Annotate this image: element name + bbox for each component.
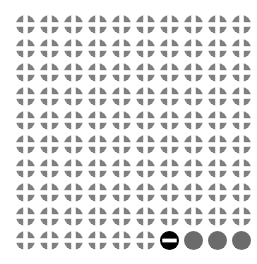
grid-cell-r10-c9[interactable] bbox=[205, 228, 229, 252]
grid-cell-r3-c10[interactable] bbox=[229, 60, 253, 84]
grid-cell-r7-c1[interactable] bbox=[13, 156, 37, 180]
grid-cell-r6-c8[interactable] bbox=[181, 132, 205, 156]
grid-cell-r10-c8[interactable] bbox=[181, 228, 205, 252]
grid-cell-r7-c8[interactable] bbox=[181, 156, 205, 180]
grid-cell-r10-c2[interactable] bbox=[37, 228, 61, 252]
grid-cell-r5-c7[interactable] bbox=[157, 108, 181, 132]
grid-cell-r7-c10[interactable] bbox=[229, 156, 253, 180]
grid-cell-r4-c8[interactable] bbox=[181, 84, 205, 108]
grid-cell-r7-c5[interactable] bbox=[109, 156, 133, 180]
grid-cell-r2-c1[interactable] bbox=[13, 36, 37, 60]
grid-cell-r8-c5[interactable] bbox=[109, 180, 133, 204]
grid-cell-r3-c4[interactable] bbox=[85, 60, 109, 84]
grid-cell-r8-c1[interactable] bbox=[13, 180, 37, 204]
grid-cell-r10-c7[interactable] bbox=[157, 228, 181, 252]
grid-cell-r3-c3[interactable] bbox=[61, 60, 85, 84]
grid-cell-r5-c9[interactable] bbox=[205, 108, 229, 132]
grid-cell-r4-c10[interactable] bbox=[229, 84, 253, 108]
grid-cell-r3-c6[interactable] bbox=[133, 60, 157, 84]
grid-cell-r9-c9[interactable] bbox=[205, 204, 229, 228]
grid-cell-r5-c1[interactable] bbox=[13, 108, 37, 132]
grid-cell-r5-c2[interactable] bbox=[37, 108, 61, 132]
grid-cell-r3-c7[interactable] bbox=[157, 60, 181, 84]
grid-cell-r6-c2[interactable] bbox=[37, 132, 61, 156]
grid-cell-r4-c4[interactable] bbox=[85, 84, 109, 108]
grid-cell-r7-c4[interactable] bbox=[85, 156, 109, 180]
grid-cell-r4-c7[interactable] bbox=[157, 84, 181, 108]
grid-cell-r1-c6[interactable] bbox=[133, 12, 157, 36]
grid-cell-r9-c10[interactable] bbox=[229, 204, 253, 228]
grid-cell-r6-c6[interactable] bbox=[133, 132, 157, 156]
grid-cell-r10-c5[interactable] bbox=[109, 228, 133, 252]
grid-cell-r4-c2[interactable] bbox=[37, 84, 61, 108]
grid-cell-r8-c4[interactable] bbox=[85, 180, 109, 204]
grid-cell-r1-c5[interactable] bbox=[109, 12, 133, 36]
grid-cell-r3-c2[interactable] bbox=[37, 60, 61, 84]
grid-cell-r1-c7[interactable] bbox=[157, 12, 181, 36]
grid-cell-r2-c4[interactable] bbox=[85, 36, 109, 60]
grid-cell-r4-c9[interactable] bbox=[205, 84, 229, 108]
grid-cell-r2-c8[interactable] bbox=[181, 36, 205, 60]
grid-cell-r4-c6[interactable] bbox=[133, 84, 157, 108]
grid-cell-r9-c4[interactable] bbox=[85, 204, 109, 228]
grid-cell-r3-c8[interactable] bbox=[181, 60, 205, 84]
grid-cell-r6-c1[interactable] bbox=[13, 132, 37, 156]
grid-cell-r5-c4[interactable] bbox=[85, 108, 109, 132]
grid-cell-r9-c2[interactable] bbox=[37, 204, 61, 228]
grid-cell-r8-c9[interactable] bbox=[205, 180, 229, 204]
grid-cell-r5-c10[interactable] bbox=[229, 108, 253, 132]
grid-cell-r3-c1[interactable] bbox=[13, 60, 37, 84]
grid-cell-r4-c5[interactable] bbox=[109, 84, 133, 108]
grid-cell-r5-c5[interactable] bbox=[109, 108, 133, 132]
grid-cell-r6-c4[interactable] bbox=[85, 132, 109, 156]
grid-cell-r1-c10[interactable] bbox=[229, 12, 253, 36]
grid-cell-r3-c9[interactable] bbox=[205, 60, 229, 84]
grid-cell-r1-c2[interactable] bbox=[37, 12, 61, 36]
grid-cell-r6-c5[interactable] bbox=[109, 132, 133, 156]
grid-cell-r2-c9[interactable] bbox=[205, 36, 229, 60]
grid-cell-r2-c5[interactable] bbox=[109, 36, 133, 60]
grid-cell-r5-c6[interactable] bbox=[133, 108, 157, 132]
grid-cell-r8-c6[interactable] bbox=[133, 180, 157, 204]
grid-cell-r8-c3[interactable] bbox=[61, 180, 85, 204]
grid-cell-r9-c3[interactable] bbox=[61, 204, 85, 228]
grid-cell-r2-c10[interactable] bbox=[229, 36, 253, 60]
grid-cell-r9-c8[interactable] bbox=[181, 204, 205, 228]
grid-cell-r10-c4[interactable] bbox=[85, 228, 109, 252]
grid-cell-r7-c9[interactable] bbox=[205, 156, 229, 180]
grid-cell-r2-c6[interactable] bbox=[133, 36, 157, 60]
grid-cell-r1-c4[interactable] bbox=[85, 12, 109, 36]
grid-cell-r8-c7[interactable] bbox=[157, 180, 181, 204]
grid-cell-r1-c9[interactable] bbox=[205, 12, 229, 36]
grid-cell-r7-c7[interactable] bbox=[157, 156, 181, 180]
grid-cell-r5-c3[interactable] bbox=[61, 108, 85, 132]
grid-cell-r8-c8[interactable] bbox=[181, 180, 205, 204]
grid-cell-r9-c5[interactable] bbox=[109, 204, 133, 228]
grid-cell-r8-c10[interactable] bbox=[229, 180, 253, 204]
grid-cell-r2-c7[interactable] bbox=[157, 36, 181, 60]
grid-cell-r9-c7[interactable] bbox=[157, 204, 181, 228]
grid-cell-r10-c10[interactable] bbox=[229, 228, 253, 252]
grid-cell-r1-c8[interactable] bbox=[181, 12, 205, 36]
grid-cell-r10-c1[interactable] bbox=[13, 228, 37, 252]
grid-cell-r7-c3[interactable] bbox=[61, 156, 85, 180]
grid-cell-r6-c10[interactable] bbox=[229, 132, 253, 156]
grid-cell-r1-c1[interactable] bbox=[13, 12, 37, 36]
grid-cell-r7-c6[interactable] bbox=[133, 156, 157, 180]
grid-cell-r9-c6[interactable] bbox=[133, 204, 157, 228]
grid-cell-r8-c2[interactable] bbox=[37, 180, 61, 204]
grid-cell-r10-c6[interactable] bbox=[133, 228, 157, 252]
grid-cell-r1-c3[interactable] bbox=[61, 12, 85, 36]
grid-cell-r10-c3[interactable] bbox=[61, 228, 85, 252]
grid-cell-r6-c3[interactable] bbox=[61, 132, 85, 156]
grid-cell-r6-c7[interactable] bbox=[157, 132, 181, 156]
grid-cell-r2-c2[interactable] bbox=[37, 36, 61, 60]
grid-cell-r3-c5[interactable] bbox=[109, 60, 133, 84]
grid-cell-r2-c3[interactable] bbox=[61, 36, 85, 60]
grid-cell-r4-c1[interactable] bbox=[13, 84, 37, 108]
grid-cell-r9-c1[interactable] bbox=[13, 204, 37, 228]
grid-cell-r6-c9[interactable] bbox=[205, 132, 229, 156]
grid-cell-r5-c8[interactable] bbox=[181, 108, 205, 132]
grid-cell-r7-c2[interactable] bbox=[37, 156, 61, 180]
grid-cell-r4-c3[interactable] bbox=[61, 84, 85, 108]
